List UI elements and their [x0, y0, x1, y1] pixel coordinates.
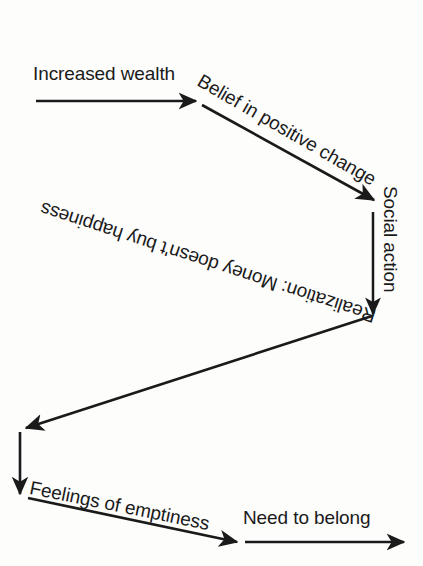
flow-diagram: Increased wealth Belief in positive chan… [0, 0, 423, 566]
node-label-social-action: Social action [381, 186, 400, 292]
node-label-need-to-belong: Need to belong [243, 508, 370, 527]
arrow-realization [26, 316, 372, 428]
node-label-increased-wealth: Increased wealth [33, 64, 175, 83]
